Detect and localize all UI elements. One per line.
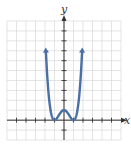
arrowhead-icon [79,48,85,53]
x-axis-label: x [124,115,130,126]
axes [7,15,127,140]
function-graph [0,0,131,151]
arrowhead-icon [43,48,49,53]
y-axis-label: y [61,4,67,15]
